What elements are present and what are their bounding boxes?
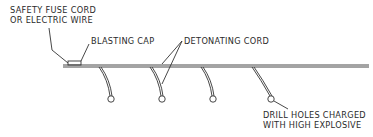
blasting-diagram: SAFETY FUSE CORD OR ELECTRIC WIRE BLASTI… <box>0 0 373 137</box>
drill-hole-4 <box>268 96 274 102</box>
detonating-cord-leader-2 <box>162 41 182 84</box>
downline-4 <box>252 67 270 96</box>
drill-hole-leader <box>274 101 288 109</box>
drill-hole-3 <box>210 96 216 102</box>
drill-holes-label-line2: WITH HIGH EXPLOSIVE <box>263 121 361 131</box>
detonating-cord-leader-1 <box>162 41 182 64</box>
blasting-cap-leader <box>81 44 89 61</box>
fuse-cord-line <box>49 28 68 63</box>
drill-hole-1 <box>108 96 114 102</box>
blasting-cap-shape <box>68 61 81 65</box>
fuse-label-line2: OR ELECTRIC WIRE <box>10 16 93 26</box>
detonating-cord-label: DETONATING CORD <box>184 37 269 47</box>
blasting-cap-label: BLASTING CAP <box>91 37 155 47</box>
drill-hole-2 <box>159 96 165 102</box>
